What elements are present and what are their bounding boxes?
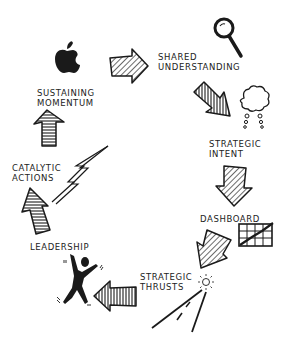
arrow-down-icon bbox=[214, 164, 254, 208]
stage-label-strategic-intent: Strategic Intent bbox=[209, 139, 261, 159]
arrow-right-icon bbox=[108, 48, 150, 86]
magnifying-glass-icon bbox=[210, 16, 246, 62]
chart-grid-icon bbox=[238, 222, 274, 248]
label-line1: Strategic bbox=[209, 139, 261, 149]
label-line2: Understanding bbox=[158, 62, 240, 72]
label-line1: Leadership bbox=[30, 242, 89, 252]
apple-icon bbox=[52, 40, 82, 75]
label-line1: Sustaining bbox=[37, 88, 95, 98]
stage-label-sustaining-momentum: Sustaining Momentum bbox=[37, 88, 95, 108]
arrow-down-right-icon bbox=[192, 78, 234, 118]
lightning-icon bbox=[50, 144, 112, 206]
arrow-up-left-icon bbox=[18, 186, 54, 236]
thought-cloud-icon bbox=[236, 84, 272, 130]
road-icon bbox=[148, 270, 218, 334]
stage-label-leadership: Leadership bbox=[30, 242, 89, 252]
arrow-up-icon bbox=[32, 108, 66, 148]
person-icon bbox=[52, 252, 104, 308]
label-line2: Momentum bbox=[37, 98, 95, 108]
label-line2: Intent bbox=[209, 149, 261, 159]
arrow-down-left-icon bbox=[193, 228, 233, 270]
